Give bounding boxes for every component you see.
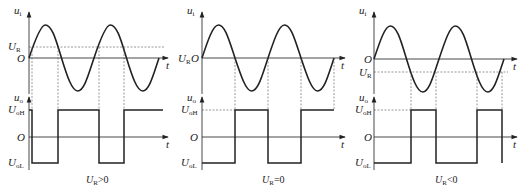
output-time-label: t: [513, 138, 517, 150]
output-origin-label: O: [190, 131, 198, 143]
comparator-waveform-diagram: ui UR O t uo UoH O t UoL UR>0 ui UR O t …: [0, 0, 530, 192]
time-label: t: [513, 60, 517, 72]
uoh-label: UoH: [8, 103, 25, 117]
output-square-wave: [374, 110, 502, 163]
output-square-wave: [29, 110, 163, 163]
caption-ur-zero: UR=0: [262, 174, 285, 187]
uol-label: UoL: [355, 156, 371, 170]
caption-ur-positive: UR>0: [86, 174, 109, 187]
time-label: t: [341, 59, 345, 71]
panel-ur-positive: ui UR O t uo UoH O t UoL UR>0: [8, 4, 170, 187]
output-square-wave: [202, 110, 334, 163]
panel-ur-negative: ui O UR t uo UoH O t UoL UR<0: [355, 4, 517, 187]
ur-label: UR: [359, 66, 372, 80]
uoh-label: UoH: [355, 103, 372, 117]
time-label: t: [166, 59, 170, 71]
output-origin-label: O: [364, 131, 372, 143]
input-label: ui: [187, 4, 195, 18]
uoh-label: UoH: [181, 103, 198, 117]
uol-label: UoL: [181, 156, 197, 170]
output-time-label: t: [166, 138, 170, 150]
origin-label: O: [191, 52, 199, 64]
panel-ur-zero: ui UR O t uo UoH O t UoL UR=0: [178, 4, 345, 187]
caption-ur-negative: UR<0: [435, 174, 458, 187]
output-time-label: t: [341, 138, 345, 150]
ur-label: UR: [178, 52, 191, 66]
origin-label: O: [364, 53, 372, 65]
origin-label: O: [17, 52, 25, 64]
input-label: ui: [359, 4, 367, 18]
uol-label: UoL: [8, 156, 24, 170]
output-origin-label: O: [17, 131, 25, 143]
input-label: ui: [14, 4, 22, 18]
